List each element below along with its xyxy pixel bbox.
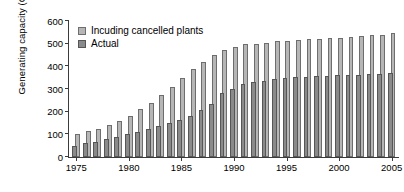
bar-actual — [356, 75, 361, 157]
bar-actual — [199, 110, 204, 157]
y-tick-label: 500 — [47, 39, 63, 49]
bar-actual — [314, 76, 319, 157]
x-tick-mark — [339, 157, 340, 161]
bar-actual — [241, 84, 246, 157]
legend-swatch-including-cancelled-icon — [78, 27, 86, 35]
chart-legend: Incuding cancelled plants Actual — [78, 24, 203, 50]
bar-actual — [188, 116, 193, 157]
bar-actual — [146, 129, 151, 157]
bar-actual — [167, 123, 172, 157]
bar-actual — [272, 79, 277, 157]
bar-actual — [83, 143, 88, 157]
bar-actual — [304, 77, 309, 157]
bar-actual — [346, 75, 351, 157]
legend-swatch-actual-icon — [78, 40, 86, 48]
bar-actual — [209, 104, 214, 157]
bar-actual — [251, 82, 256, 157]
bar-actual — [335, 75, 340, 157]
bar-actual — [135, 132, 140, 157]
x-tick-mark — [392, 157, 393, 161]
x-tick-mark — [287, 157, 288, 161]
x-tick-mark — [181, 157, 182, 161]
bar-actual — [230, 89, 235, 157]
y-tick-mark — [65, 111, 69, 112]
bar-actual — [388, 73, 393, 157]
y-tick-mark — [65, 43, 69, 44]
bar-actual — [293, 77, 298, 157]
y-tick-mark — [65, 65, 69, 66]
y-tick-label: 400 — [47, 62, 63, 72]
x-tick-label: 1990 — [223, 163, 244, 173]
bar-actual — [125, 134, 130, 157]
bar-actual — [177, 120, 182, 157]
y-tick-label: 100 — [47, 130, 63, 140]
legend-item-including-cancelled: Incuding cancelled plants — [78, 24, 203, 37]
x-tick-label: 2005 — [381, 163, 402, 173]
y-tick-mark — [65, 20, 69, 21]
x-tick-mark — [129, 157, 130, 161]
legend-label-actual: Actual — [91, 39, 119, 49]
chart-container: Generating capacity (GW) 010020030040050… — [0, 0, 404, 192]
bar-actual — [220, 93, 225, 157]
bar-actual — [377, 74, 382, 157]
bar-actual — [367, 74, 372, 157]
x-tick-label: 1975 — [66, 163, 87, 173]
bar-actual — [104, 139, 109, 157]
y-axis-title: Generating capacity (GW) — [16, 0, 27, 114]
bar-actual — [93, 142, 98, 157]
x-tick-mark — [76, 157, 77, 161]
y-tick-label: 200 — [47, 107, 63, 117]
bar-actual — [156, 126, 161, 157]
bar-actual — [72, 146, 77, 157]
bar-actual — [325, 76, 330, 157]
bar-actual — [114, 137, 119, 157]
x-tick-label: 2000 — [329, 163, 350, 173]
bar-actual — [262, 81, 267, 157]
y-tick-label: 600 — [47, 16, 63, 26]
y-tick-mark — [65, 156, 69, 157]
y-tick-label: 0 — [58, 152, 63, 162]
x-tick-label: 1995 — [276, 163, 297, 173]
legend-item-actual: Actual — [78, 37, 203, 50]
legend-label-including-cancelled: Incuding cancelled plants — [91, 26, 203, 36]
y-tick-mark — [65, 88, 69, 89]
x-tick-mark — [234, 157, 235, 161]
y-tick-label: 300 — [47, 84, 63, 94]
bar-actual — [283, 78, 288, 157]
y-tick-mark — [65, 133, 69, 134]
x-tick-label: 1980 — [118, 163, 139, 173]
x-tick-label: 1985 — [171, 163, 192, 173]
